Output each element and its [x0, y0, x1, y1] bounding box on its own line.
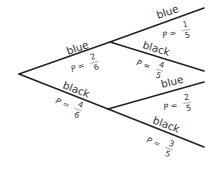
svg-text:3: 3	[168, 139, 176, 149]
svg-text:6: 6	[73, 110, 81, 120]
svg-text:P =: P =	[163, 101, 178, 112]
svg-text:2: 2	[89, 52, 97, 62]
svg-text:P =: P =	[54, 96, 70, 109]
svg-text:P =: P =	[70, 61, 86, 74]
svg-text:P =: P =	[135, 58, 151, 71]
svg-text:4: 4	[77, 100, 85, 110]
svg-text:5: 5	[164, 149, 172, 159]
svg-text:5: 5	[184, 30, 191, 40]
svg-text:P =: P =	[162, 28, 178, 40]
tree-diagram: blue P = 2 6 black P = 4 6 blue P = 1 5 …	[0, 0, 219, 175]
svg-text:P =: P =	[145, 135, 161, 148]
svg-text:2: 2	[183, 92, 190, 102]
svg-text:1: 1	[182, 20, 189, 30]
svg-text:black: black	[141, 38, 172, 58]
svg-text:4: 4	[158, 60, 166, 70]
svg-text:6: 6	[92, 62, 100, 72]
branch-label-blue-black: black	[141, 38, 172, 58]
probability-blue-blue: P = 1 5	[160, 19, 192, 44]
probability-black-blue: P = 2 5	[162, 92, 193, 117]
probability-black-black: P = 3 5	[143, 131, 176, 160]
branch-label-black-blue: blue	[160, 73, 185, 90]
svg-text:blue: blue	[160, 73, 185, 90]
svg-text:5: 5	[185, 103, 192, 113]
